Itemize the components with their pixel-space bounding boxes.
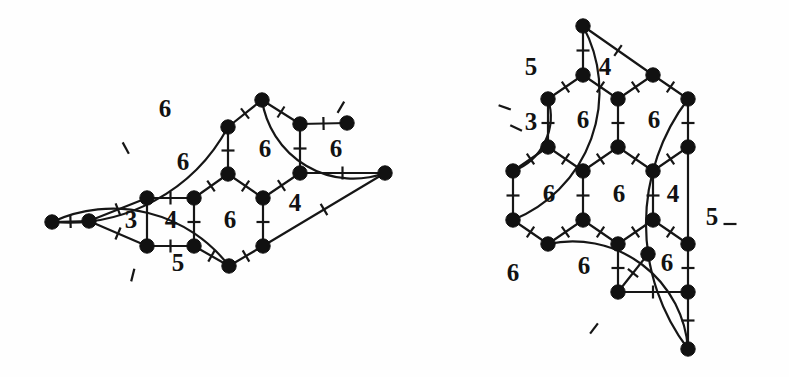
left-graph-face-label: 6 (224, 206, 237, 233)
right-graph-face-label: 3 (525, 108, 538, 135)
left-graph-face-label: 4 (289, 189, 302, 216)
right-graph-vertex (541, 140, 555, 154)
right-graph-tick-mark (632, 82, 639, 93)
left-graph-vertex (140, 191, 154, 205)
right-graph-vertex (576, 19, 590, 33)
left-graph-vertex (140, 239, 154, 253)
right-graph-vertex (611, 285, 625, 299)
graph-figure-svg: 666634645 543666645666 (0, 0, 789, 377)
right-graph-tick-mark (667, 227, 674, 238)
left-graph-tick-mark (207, 181, 215, 192)
right-graph-tick-mark (510, 125, 522, 131)
left-graph-face-label: 6 (159, 95, 172, 122)
left-graph-vertex (256, 239, 270, 253)
right-graph-vertex (506, 213, 520, 227)
right-graph-vertex (681, 342, 695, 356)
right-graph-tick-mark (667, 154, 674, 165)
left-graph-tick-mark (321, 204, 328, 215)
right-graph-face-label: 6 (613, 180, 626, 207)
right-graph-tick-mark (597, 154, 604, 165)
left-graph-edge (52, 127, 228, 223)
right-graph-face-label: 5 (706, 203, 719, 230)
left-graph-face-label: 5 (172, 249, 185, 276)
right-graph-vertex (611, 92, 625, 106)
left-graph-tick-mark (208, 250, 214, 261)
right-graph-tick-mark (667, 82, 674, 93)
left-graph-vertices (45, 93, 392, 273)
right-graph-vertex (576, 68, 590, 82)
left-graph-vertex (256, 191, 270, 205)
right-graph-vertex (576, 213, 590, 227)
right-graph-face-label: 4 (599, 53, 612, 80)
left-graph-vertex (222, 259, 236, 273)
right-graph-vertex (541, 92, 555, 106)
left-graph-vertex (187, 239, 201, 253)
left-graph-vertex (293, 166, 307, 180)
right-graph-face-label: 6 (507, 259, 520, 286)
left-graph-face-label: 4 (165, 206, 178, 233)
left-graph-vertex (187, 191, 201, 205)
right-graph-vertex (681, 285, 695, 299)
left-graph-vertex (293, 117, 307, 131)
right-graph-vertex (681, 237, 695, 251)
left-graph-tick-mark (131, 269, 134, 282)
right-graph-tick-mark (562, 82, 569, 93)
left-graph-face-label: 6 (177, 148, 190, 175)
right-graph-face-label: 6 (661, 249, 674, 276)
left-graph-vertex (340, 116, 354, 130)
left-graph-edge (52, 209, 229, 266)
left-graph-face-label: 6 (259, 135, 272, 162)
left-graph-face-label: 6 (330, 135, 343, 162)
right-graph-tick-mark (562, 154, 569, 165)
left-graph-tick-mark (278, 107, 285, 118)
right-graph-tick-mark (614, 45, 621, 56)
left-graph-vertex (82, 214, 96, 228)
right-graph-tick-mark (632, 154, 639, 165)
left-graph-tick-mark (338, 102, 345, 113)
left-graph-layer: 666634645 (45, 93, 392, 282)
right-graph-vertex (611, 237, 625, 251)
right-graph-tick-mark (632, 227, 639, 238)
right-graph-vertex (506, 164, 520, 178)
right-graph-tick-mark (590, 323, 598, 333)
right-graph-face-label: 6 (648, 106, 661, 133)
right-graph-layer: 543666645666 (499, 19, 737, 356)
left-graph-vertex (255, 93, 269, 107)
left-graph-tick-mark (123, 142, 129, 153)
right-graph-tick-mark (527, 227, 534, 238)
right-graph-face-label: 6 (543, 180, 556, 207)
left-graph-tick-mark (242, 181, 249, 192)
left-graph-vertex (45, 215, 59, 229)
right-graph-vertex (611, 140, 625, 154)
right-graph-tick-mark (597, 227, 604, 238)
left-graph-vertex (221, 167, 235, 181)
right-graph-vertex (641, 247, 655, 261)
right-graph-vertex (646, 68, 660, 82)
right-graph-tick-mark (562, 227, 569, 238)
right-graph-vertex (576, 164, 590, 178)
figure-canvas: 666634645 543666645666 (0, 0, 789, 377)
left-graph-edges (52, 100, 385, 266)
left-graph-vertex (378, 166, 392, 180)
right-graph-vertex (541, 237, 555, 251)
right-graph-face-label: 6 (578, 252, 591, 279)
right-graph-face-label: 4 (667, 180, 680, 207)
right-graph-face-label: 6 (577, 106, 590, 133)
right-graph-vertex (681, 92, 695, 106)
right-graph-vertex (681, 140, 695, 154)
left-graph-tick-mark (243, 250, 250, 261)
right-graph-vertex (646, 164, 660, 178)
right-graph-face-label: 5 (525, 53, 538, 80)
right-graph-vertex (646, 213, 660, 227)
right-graph-tick-mark (499, 105, 511, 109)
left-graph-vertex (221, 120, 235, 134)
left-graph-face-label: 3 (125, 206, 138, 233)
left-graph-tick-mark (278, 180, 285, 191)
